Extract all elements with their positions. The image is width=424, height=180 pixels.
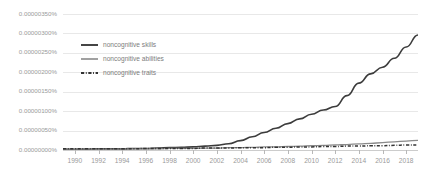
line-chart: 0.00000000%0.00000050%0.00000100%0.00000… bbox=[0, 0, 424, 180]
y-axis-tick-label: 0.00000350% bbox=[19, 10, 58, 17]
x-axis-tick-label: 1990 bbox=[67, 157, 82, 164]
x-axis-tick-label: 2014 bbox=[351, 157, 366, 164]
x-axis-tick-label: 2018 bbox=[399, 157, 414, 164]
x-axis-tick-label: 2000 bbox=[186, 157, 201, 164]
y-axis-tick-label: 0.00000100% bbox=[19, 107, 58, 114]
series-line-2 bbox=[63, 145, 418, 149]
x-axis-tick-label: 2004 bbox=[233, 157, 248, 164]
y-axis-tick-label: 0.00000050% bbox=[19, 126, 58, 133]
x-axis-tick-label: 2008 bbox=[280, 157, 295, 164]
x-axis-tick-label: 2006 bbox=[257, 157, 272, 164]
legend-label-2: noncognitive traits bbox=[103, 69, 157, 77]
x-axis-tick-label: 1996 bbox=[138, 157, 153, 164]
x-axis-tick-label: 1994 bbox=[115, 157, 130, 164]
y-axis-tick-labels: 0.00000000%0.00000050%0.00000100%0.00000… bbox=[19, 10, 58, 153]
y-axis-tick-label: 0.00000200% bbox=[19, 68, 58, 75]
x-axis-tick-label: 1998 bbox=[162, 157, 177, 164]
y-axis-tick-label: 0.00000150% bbox=[19, 87, 58, 94]
x-axis-tick-labels: 1990199219941996199820002002200420062008… bbox=[67, 157, 413, 164]
x-axis-tick-label: 1992 bbox=[91, 157, 106, 164]
chart-legend: noncognitive skillsnoncognitive abilitie… bbox=[81, 41, 165, 77]
x-axis-tick-label: 2002 bbox=[209, 157, 224, 164]
x-axis-tick-label: 2012 bbox=[328, 157, 343, 164]
legend-label-0: noncognitive skills bbox=[103, 41, 157, 49]
x-axis-tick-label: 2010 bbox=[304, 157, 319, 164]
y-axis-tick-label: 0.00000300% bbox=[19, 29, 58, 36]
y-axis-tick-label: 0.00000250% bbox=[19, 48, 58, 55]
y-axis-tick-label: 0.00000000% bbox=[19, 146, 58, 153]
legend-label-1: noncognitive abilities bbox=[103, 55, 165, 63]
x-axis-tick-label: 2016 bbox=[375, 157, 390, 164]
ngram-chart-container: 0.00000000%0.00000050%0.00000100%0.00000… bbox=[0, 0, 424, 180]
gridlines bbox=[63, 15, 418, 151]
